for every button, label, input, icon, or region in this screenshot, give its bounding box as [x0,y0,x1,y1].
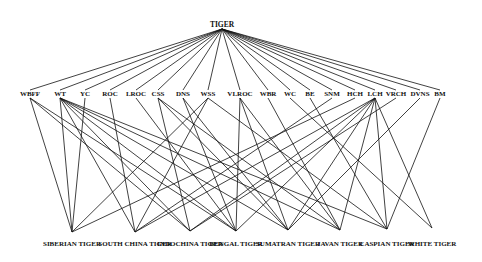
edge-yc-siberian [72,98,85,232]
attribute-node-be: BE [305,90,315,98]
attribute-node-css: CSS [152,90,165,98]
edge-root-hch [222,29,355,90]
attribute-node-wbr: WBR [260,90,278,98]
species-node-siberian: SIBERIAN TIGER [43,240,102,248]
attribute-node-vlroc: VLROC [227,90,252,98]
attribute-node-dns: DNS [176,90,190,98]
edge-root-wss [208,29,222,90]
edge-wc-white [290,98,432,228]
edge-root-bm [222,29,440,90]
edge-lch-white [375,98,432,228]
attribute-node-wc: WC [284,90,296,98]
species-edges [30,98,440,232]
edge-lch-caspian [375,98,387,229]
attribute-node-snm: SNM [324,90,340,98]
edge-css-sumatran [158,98,288,230]
attribute-node-roc: ROC [102,90,118,98]
attribute-node-dvns: DVNS [410,90,429,98]
edge-root-snm [222,29,332,90]
edge-root-yc [85,29,222,90]
attribute-node-yc: YC [80,90,90,98]
attribute-node-hch: HCH [347,90,364,98]
edge-vlroc-javan [240,98,340,230]
edge-wbr-javan [268,98,340,230]
attribute-node-bm: BM [434,90,446,98]
edge-root-css [158,29,222,90]
edge-wbff-bengal [30,98,236,231]
attribute-node-vrch: VRCH [386,90,407,98]
edge-root-dns [183,29,222,90]
edge-wt-indochina [60,98,190,231]
attribute-node-wbff: WBFF [20,90,40,98]
edge-root-vrch [222,29,396,90]
attribute-node-lroc: LROC [126,90,146,98]
edge-lch-bengal [236,98,375,231]
tiger-hierarchy-diagram: TIGERWBFFWTYCROCLROCCSSDNSWSSVLROCWBRWCB… [0,0,482,262]
edge-bm-caspian [387,98,440,229]
edge-lch-javan [340,98,375,230]
root-node-tiger: TIGER [210,20,235,29]
edge-root-lroc [136,29,222,90]
edge-root-vlroc [222,29,240,90]
species-node-javan: JAVAN TIGER [317,240,364,248]
edge-hch-siberian [72,98,355,232]
species-node-sumatran: SUMATRAN TIGER [256,240,321,248]
edge-lch-indochina [190,98,375,231]
edge-wt-south_china [60,98,135,232]
edge-root-dvns [222,29,420,90]
attribute-node-wss: WSS [201,90,216,98]
attribute-node-wt: WT [54,90,66,98]
attribute-node-lch: LCH [367,90,383,98]
edge-vlroc-sumatran [240,98,288,230]
edge-vlroc-bengal [236,98,240,231]
edge-vrch-indochina [190,98,396,231]
edge-wss-siberian [72,98,208,232]
edge-be-caspian [310,98,387,229]
edge-root-be [222,29,310,90]
edge-root-wt [60,29,222,90]
root-edges [30,29,440,90]
species-node-white: WHITE TIGER [408,240,458,248]
